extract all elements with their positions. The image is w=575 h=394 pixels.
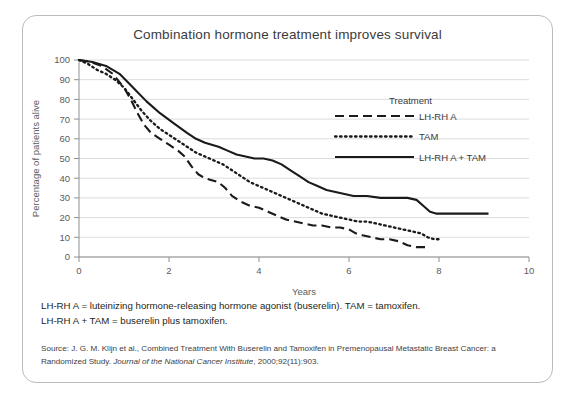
y-tick-label: 0 [65,251,70,262]
x-tick-label: 2 [166,265,171,276]
x-tick-label: 4 [256,265,261,276]
x-tick-label: 10 [524,265,535,276]
y-tick-label: 20 [59,212,70,223]
y-tick-label: 90 [59,74,70,85]
survival-chart: 0102030405060708090100 0246810 Percentag… [23,16,554,296]
chart-legend: Treatment LH-RH ATAMLH-RH A + TAM [335,95,486,163]
source-suffix: , 2000;92(11):903. [253,357,319,366]
legend-label-0: LH-RH A [419,111,457,122]
y-tick-label: 80 [59,94,70,105]
notes-line-2: LH-RH A + TAM = buserelin plus tamoxifen… [41,314,541,329]
figure-source: Source: J. G. M. Klijn et al., Combined … [41,343,541,368]
y-tick-label: 50 [59,153,70,164]
legend-label-1: TAM [419,131,438,142]
source-journal: Journal of the National Cancer Institute [113,357,253,366]
y-tick-label: 30 [59,192,70,203]
y-tick-label: 100 [54,54,70,65]
x-axis-label: Years [292,286,316,296]
x-tick-label: 0 [76,265,81,276]
legend-title: Treatment [389,95,432,106]
y-axis-label: Percentage of patients alive [30,100,41,217]
y-tick-label: 70 [59,114,70,125]
x-tick-label: 6 [346,265,351,276]
y-axis-ticks: 0102030405060708090100 [54,54,79,262]
figure-card: Combination hormone treatment improves s… [22,15,553,383]
y-tick-label: 60 [59,133,70,144]
x-axis-ticks: 0246810 [76,257,534,276]
y-tick-label: 40 [59,173,70,184]
figure-notes: LH-RH A = luteinizing hormone-releasing … [41,299,541,328]
x-tick-label: 8 [436,265,441,276]
y-tick-label: 10 [59,232,70,243]
notes-line-1: LH-RH A = luteinizing hormone-releasing … [41,299,541,314]
legend-label-2: LH-RH A + TAM [419,152,486,163]
series-line-0 [79,60,426,247]
